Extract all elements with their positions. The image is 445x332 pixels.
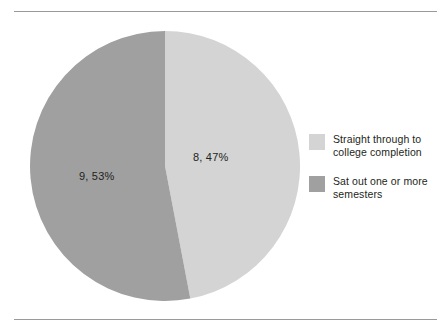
legend-item-straight-through[interactable]: Straight through to college completion xyxy=(309,133,439,159)
legend-swatch-icon-straight-through xyxy=(309,134,325,150)
pie-slice-straight-through[interactable] xyxy=(165,31,300,299)
pie-slice-label-straight-through: 8, 47% xyxy=(193,151,228,163)
legend-label-line2: college completion xyxy=(333,146,422,158)
bottom-divider-rule xyxy=(14,319,437,320)
chart-legend: Straight through to college completion S… xyxy=(309,133,439,217)
legend-label-line2: semesters xyxy=(333,188,382,200)
pie-slices xyxy=(30,31,300,301)
legend-label-line1: Sat out one or more xyxy=(333,175,428,187)
pie-svg xyxy=(30,31,300,301)
pie-slice-label-sat-out: 9, 53% xyxy=(79,170,114,182)
legend-item-sat-out[interactable]: Sat out one or more semesters xyxy=(309,175,439,201)
legend-label-sat-out: Sat out one or more semesters xyxy=(333,175,428,201)
legend-label-line1: Straight through to xyxy=(333,133,421,145)
legend-label-straight-through: Straight through to college completion xyxy=(333,133,422,159)
pie-chart xyxy=(30,31,300,301)
top-divider-rule xyxy=(14,11,437,12)
chart-figure: 8, 47% 9, 53% Straight through to colleg… xyxy=(0,0,445,332)
legend-swatch-icon-sat-out xyxy=(309,176,325,192)
